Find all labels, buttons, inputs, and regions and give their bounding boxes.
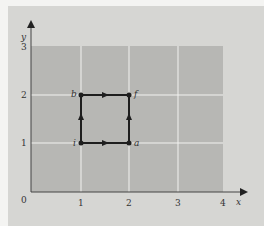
- y-tick-3: 3: [21, 42, 27, 52]
- x-tick-1: 1: [78, 198, 84, 208]
- origin-label: 0: [21, 195, 27, 205]
- point-label-b: b: [71, 89, 77, 99]
- x-tick-2: 2: [126, 198, 132, 208]
- point-label-i: i: [73, 138, 76, 148]
- y-axis-label: y: [20, 32, 27, 42]
- y-tick-1: 1: [21, 138, 27, 148]
- pv-diagram: y 3 2 1 0 1 2 3 4 x b f i a: [0, 0, 264, 226]
- y-tick-2: 2: [21, 90, 27, 100]
- x-tick-3: 3: [175, 198, 181, 208]
- x-tick-4: 4: [220, 198, 226, 208]
- x-axis-arrow-icon: [240, 188, 248, 196]
- x-axis-label: x: [236, 197, 241, 207]
- y-axis-arrow-icon: [27, 20, 35, 28]
- point-label-a: a: [134, 138, 139, 148]
